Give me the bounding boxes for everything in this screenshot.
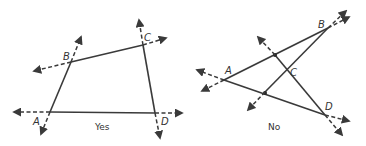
arrow-icon <box>41 112 50 134</box>
arrow-icon <box>197 70 224 80</box>
arrow-icon <box>325 115 349 121</box>
arrow-icon <box>71 37 81 62</box>
label-a: A <box>224 65 232 76</box>
caption-no: No <box>268 122 281 132</box>
arrow-icon <box>139 20 143 45</box>
side-bc <box>265 28 328 92</box>
side-bc <box>71 45 143 62</box>
side-cd <box>143 45 155 113</box>
label-a: A <box>32 116 40 127</box>
side-ad <box>50 112 155 113</box>
label-b: B <box>318 19 325 30</box>
label-c: C <box>290 67 297 78</box>
arrow-icon <box>155 113 160 138</box>
label-c: C <box>144 32 151 43</box>
figure-yes: A B C D Yes <box>14 20 182 138</box>
arrow-icon <box>248 92 265 110</box>
label-b: B <box>63 51 70 62</box>
arrow-icon <box>34 62 71 71</box>
figure-no: A B C D No <box>197 11 349 135</box>
arrow-icon <box>258 37 275 55</box>
label-d: D <box>161 116 169 127</box>
label-d: D <box>325 101 333 112</box>
arrow-icon <box>202 80 224 91</box>
quadrilateral-diagram: A B C D Yes A B C D No <box>0 0 366 146</box>
side-ab <box>50 62 71 112</box>
caption-yes: Yes <box>94 122 110 132</box>
arrow-icon <box>328 11 346 28</box>
